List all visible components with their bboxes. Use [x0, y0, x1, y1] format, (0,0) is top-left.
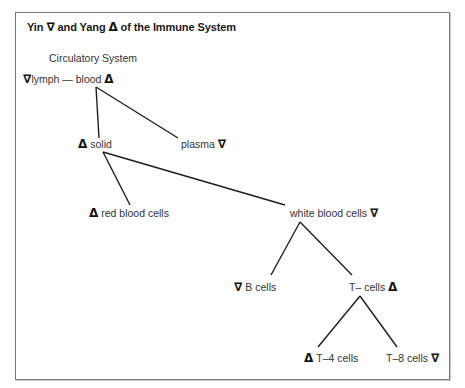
yin-symbol-icon: ∇	[431, 351, 439, 365]
node-label: B cells	[242, 281, 276, 293]
yang-symbol-icon: Δ	[104, 72, 113, 86]
node-label: T–8 cells	[386, 352, 431, 364]
node-lymph-blood: ∇lymph — blood Δ	[23, 73, 114, 86]
yang-symbol-icon: Δ	[78, 137, 87, 151]
node-label: T– cells	[349, 281, 388, 293]
yin-symbol-icon: ∇	[370, 206, 378, 220]
edge-t-cells-t8	[360, 296, 397, 347]
node-label: T–4 cells	[313, 352, 358, 364]
yang-symbol-icon: Δ	[388, 280, 397, 294]
node-label: white blood cells	[290, 207, 370, 219]
edge-wbc-b-cells	[271, 222, 300, 275]
node-label: red blood cells	[98, 207, 169, 219]
edge-t-cells-t4	[318, 296, 360, 347]
yin-symbol-icon: ∇	[218, 137, 226, 151]
node-label: plasma	[181, 138, 218, 150]
node-b-cells: ∇ B cells	[234, 281, 276, 294]
node-t4-cells: Δ T–4 cells	[304, 352, 358, 365]
node-plasma: plasma ∇	[181, 138, 226, 151]
node-label: solid	[87, 138, 112, 150]
node-t8-cells: T–8 cells ∇	[386, 352, 439, 365]
edge-wbc-t-cells	[300, 222, 352, 275]
edge-root-plasma	[96, 87, 178, 138]
node-label: lymph — blood	[31, 73, 101, 85]
edge-solid-red-blood-cells	[103, 152, 130, 205]
tree-edges	[0, 0, 465, 388]
node-t-cells: T– cells Δ	[349, 281, 397, 294]
yang-symbol-icon: Δ	[304, 351, 313, 365]
node-solid: Δ solid	[78, 138, 112, 151]
node-white-blood-cells: white blood cells ∇	[290, 207, 378, 220]
edge-root-solid	[96, 87, 99, 138]
edge-solid-white-blood-cells	[103, 152, 285, 205]
yang-symbol-icon: Δ	[89, 206, 98, 220]
node-red-blood-cells: Δ red blood cells	[89, 207, 169, 220]
